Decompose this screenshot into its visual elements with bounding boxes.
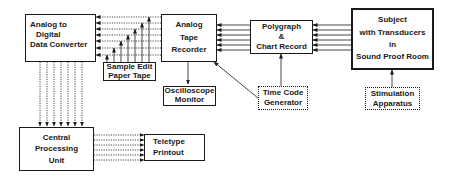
poly-label-line2: &	[279, 32, 285, 42]
stim-label-line2: Apparatus	[373, 99, 413, 109]
subject-label-line4: Sound Proof Room	[356, 51, 429, 63]
tape-label-line1: Analog	[175, 19, 202, 32]
tape-label-line2: Tape	[180, 32, 198, 45]
adc-label-line2: Digital	[26, 30, 60, 40]
analog-to-digital-converter-box: Analog to Digital Data Converter	[25, 14, 96, 62]
subject-label-line3: in	[389, 39, 396, 51]
tape-label-line3: Recorder	[171, 44, 206, 57]
adc-label-line1: Analog to	[26, 20, 67, 30]
central-processing-unit-box: Central Processing Unit	[19, 127, 94, 171]
sample-label-line2: Paper Tape	[108, 72, 151, 81]
poly-label-line1: Polygraph	[262, 22, 301, 32]
edge-polygraph-to-tape	[217, 25, 250, 50]
adc-label-line3: Data Converter	[26, 40, 87, 50]
edge-tape-to-adc	[96, 17, 161, 55]
tty-label-line2: Printout	[153, 148, 184, 158]
cpu-label-line1: Central	[43, 132, 71, 144]
cpu-label-line3: Unit	[49, 155, 65, 167]
tty-label-line1: Teletype	[153, 137, 185, 147]
edge-adc-to-cpu	[40, 62, 82, 126]
analog-tape-recorder-box: Analog Tape Recorder	[161, 14, 217, 62]
tcg-label-line2: Generator	[264, 98, 302, 108]
edge-sample-edit-up	[107, 17, 149, 62]
subject-transducers-box: Subject with Transducers in Sound Proof …	[351, 8, 434, 70]
stim-label-line1: Stimulation	[371, 89, 415, 99]
tcg-label-line1: Time Code	[263, 88, 304, 98]
teletype-printout-box: Teletype Printout	[144, 134, 205, 161]
subject-label-line1: Subject	[378, 14, 407, 26]
sample-edit-paper-tape-box: Sample Edit Paper Tape	[103, 62, 156, 81]
edge-cpu-to-teletype	[94, 135, 144, 160]
subject-label-line2: with Transducers	[360, 27, 426, 39]
edge-timecode-to-tape	[214, 62, 258, 98]
poly-label-line3: Chart Record	[256, 42, 307, 52]
time-code-generator-box: Time Code Generator	[258, 86, 308, 110]
polygraph-chart-record-box: Polygraph & Chart Record	[250, 20, 313, 54]
cpu-label-line2: Processing	[35, 143, 78, 155]
edge-subject-to-polygraph	[313, 25, 351, 50]
osc-label-line2: Monitor	[175, 96, 204, 105]
oscilloscope-monitor-box: Oscilloscope Monitor	[163, 86, 216, 106]
stimulation-apparatus-box: Stimulation Apparatus	[365, 87, 420, 110]
